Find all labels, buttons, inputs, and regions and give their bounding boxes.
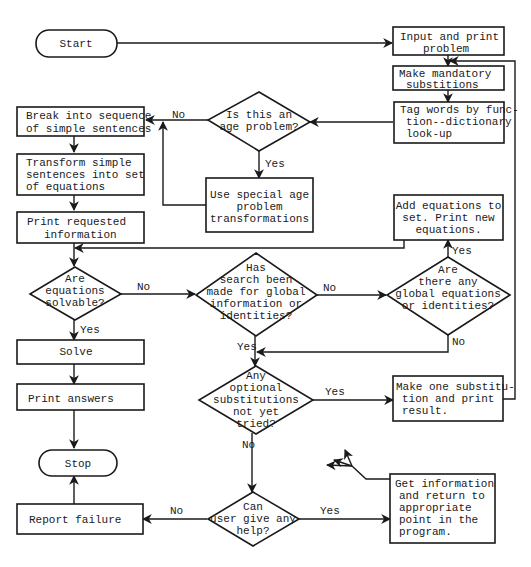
process-tag-words-line: Tag words by func- bbox=[400, 104, 519, 116]
process-tag-words: Tag words by func- tion--dictionary look… bbox=[394, 102, 519, 143]
process-add-equations: Add equations to set. Print new equation… bbox=[394, 195, 503, 240]
process-input-print: Input and print problem bbox=[393, 27, 504, 55]
decision-optional-line: not yet bbox=[233, 406, 279, 418]
decision-search-line: identities? bbox=[220, 310, 293, 322]
process-print-requested-line: information bbox=[44, 229, 117, 241]
terminal-start-label: Start bbox=[59, 38, 92, 50]
terminal-stop: Stop bbox=[39, 450, 117, 476]
process-mandatory-substitutions: Make mandatory substitions bbox=[393, 66, 504, 91]
process-get-info-line: point in the bbox=[399, 514, 478, 526]
process-get-info-line: Get information bbox=[395, 478, 494, 490]
arrow-get-info-return-stem bbox=[352, 466, 390, 479]
flowchart-diagram: Start Stop Input and print problem Make … bbox=[0, 0, 531, 567]
edge-label-search-yes: Yes bbox=[237, 341, 257, 353]
process-age-transform-line: problem bbox=[236, 201, 283, 213]
decision-optional-line: tried? bbox=[236, 418, 276, 430]
process-one-substitution-line: Make one substitu- bbox=[396, 381, 515, 393]
decision-global-line: or identities? bbox=[402, 300, 494, 312]
process-break-line: of simple sentences bbox=[26, 123, 151, 135]
process-break-sentences: Break into sequence of simple sentences bbox=[17, 107, 151, 136]
process-print-requested: Print requested information bbox=[17, 212, 144, 243]
decision-help-line: Can bbox=[243, 501, 263, 513]
decision-solvable-line: Are bbox=[65, 273, 85, 285]
process-solve: Solve bbox=[17, 340, 144, 364]
process-print-requested-line: Print requested bbox=[27, 216, 126, 228]
decision-global-equations: Are there any global equations or identi… bbox=[387, 257, 510, 335]
process-transform-line: sentences into set bbox=[26, 169, 145, 181]
edge-label-global-yes: Yes bbox=[452, 245, 472, 257]
process-report-failure-label: Report failure bbox=[29, 514, 121, 526]
decision-optional-line: optional bbox=[230, 382, 283, 394]
decision-search-line: search been bbox=[220, 274, 293, 286]
decision-solvable-line: equations bbox=[45, 285, 104, 297]
arrow-age-transform-return bbox=[163, 122, 206, 205]
process-get-info-line: and return to bbox=[399, 490, 485, 502]
edge-label-solvable-yes: Yes bbox=[80, 324, 100, 336]
process-one-substitution-line: result. bbox=[402, 405, 448, 417]
edge-label-optional-yes: Yes bbox=[325, 386, 345, 398]
edge-label-help-yes: Yes bbox=[320, 505, 340, 517]
process-tag-words-line: tion--dictionary bbox=[406, 116, 512, 128]
decision-search-line: made for global bbox=[206, 286, 305, 298]
process-input-print-line: problem bbox=[423, 43, 470, 55]
edge-label-search-no: No bbox=[323, 282, 336, 294]
process-print-answers: Print answers bbox=[17, 384, 144, 410]
decision-search-line: Has bbox=[246, 262, 266, 274]
decision-solvable: Are equations solvable? bbox=[30, 267, 121, 320]
decision-age-problem: Is this an age problem? bbox=[208, 92, 310, 151]
process-transform: Transform simple sentences into set of e… bbox=[17, 154, 145, 195]
decision-global-line: there any bbox=[418, 276, 478, 288]
process-get-info-line: appropriate bbox=[399, 502, 472, 514]
decision-user-help: Can user give any help? bbox=[208, 492, 299, 546]
process-age-transform-line: transformations bbox=[210, 213, 309, 225]
process-print-answers-label: Print answers bbox=[28, 393, 114, 405]
process-add-equations-line: equations. bbox=[415, 224, 481, 236]
process-get-information: Get information and return to appropriat… bbox=[390, 474, 495, 543]
edge-label-global-no: No bbox=[452, 336, 465, 348]
process-tag-words-line: look-up bbox=[406, 128, 452, 140]
decision-optional-substitutions: Any optional substitutions not yet tried… bbox=[199, 366, 313, 434]
edge-label-age-yes: Yes bbox=[265, 158, 285, 170]
decision-global-line: Are bbox=[438, 264, 458, 276]
process-mandatory-line: substitions bbox=[406, 79, 479, 91]
decision-search-line: information or bbox=[210, 298, 302, 310]
process-age-transformations: Use special age problem transformations bbox=[206, 178, 313, 232]
decision-solvable-line: solvable? bbox=[45, 297, 104, 309]
process-break-line: Break into sequence bbox=[26, 110, 151, 122]
decision-optional-line: Any bbox=[246, 370, 266, 382]
terminal-start: Start bbox=[36, 30, 117, 57]
process-add-equations-line: Add equations to bbox=[396, 200, 502, 212]
process-transform-line: Transform simple bbox=[26, 157, 132, 169]
process-input-print-line: Input and print bbox=[400, 31, 499, 43]
decision-help-line: user give any bbox=[210, 513, 296, 525]
edge-label-optional-no: No bbox=[242, 439, 255, 451]
process-solve-label: Solve bbox=[59, 346, 92, 358]
process-transform-line: of equations bbox=[26, 181, 105, 193]
decision-global-line: global equations bbox=[395, 288, 501, 300]
edge-label-help-no: No bbox=[170, 505, 183, 517]
process-age-transform-line: Use special age bbox=[210, 189, 309, 201]
process-one-substitution-line: tion and print bbox=[402, 393, 494, 405]
arrow-global-no bbox=[257, 335, 448, 352]
terminal-stop-label: Stop bbox=[65, 458, 91, 470]
edge-label-solvable-no: No bbox=[137, 281, 150, 293]
decision-help-line: help? bbox=[236, 525, 269, 537]
decision-age-line: Is this an bbox=[226, 109, 292, 121]
decision-optional-line: substitutions bbox=[213, 394, 299, 406]
process-one-substitution: Make one substitu- tion and print result… bbox=[393, 376, 515, 421]
return-arrow-3 bbox=[327, 465, 352, 466]
decision-search-made: Has search been made for global informat… bbox=[196, 253, 317, 336]
edge-label-age-no: No bbox=[172, 109, 185, 121]
process-add-equations-line: set. Print new bbox=[402, 212, 495, 224]
decision-age-line: age problem? bbox=[219, 121, 298, 133]
process-report-failure: Report failure bbox=[17, 504, 143, 534]
process-get-info-line: program. bbox=[399, 526, 452, 538]
